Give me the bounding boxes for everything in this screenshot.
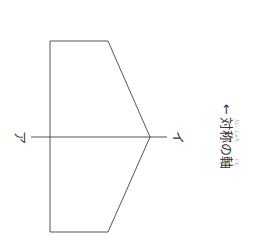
- axis-caption: ← たい 対 しょう 称 の じく 軸: [220, 104, 238, 169]
- axis-word: たい 対: [220, 117, 238, 130]
- arrow-left-icon: ←: [220, 104, 233, 115]
- axis-word: じく 軸: [220, 156, 238, 169]
- kanji: 対: [220, 117, 233, 130]
- axis-word: しょう 称: [220, 130, 238, 143]
- kanji: 称: [220, 130, 233, 143]
- kanji: 軸: [220, 156, 233, 169]
- label-i: イ: [172, 131, 185, 144]
- axis-word: の: [220, 143, 238, 156]
- label-a: ア: [14, 131, 27, 144]
- kana: の: [220, 143, 233, 156]
